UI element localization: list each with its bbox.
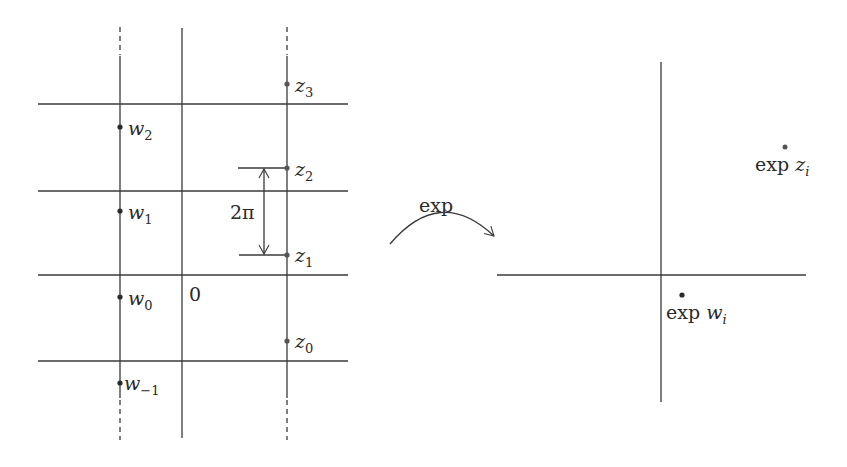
exp-map-diagram: w2 w1 w0 w−1 z3 z2 z1 z0 0 2π exp expzi … [0,0,847,467]
period-label: 2π [230,201,255,223]
label-z1: z1 [294,244,313,270]
label-w0: w0 [128,287,153,313]
origin-label: 0 [189,283,201,305]
label-z0: z0 [294,330,313,356]
point-z3 [284,81,289,86]
label-z3: z3 [294,74,313,100]
label-exp-w: expwi [666,301,727,327]
label-w1: w1 [128,201,153,227]
point-w-1 [117,380,122,385]
right-panel-axes [497,62,806,402]
label-w-1: w−1 [124,372,159,398]
label-exp-z: expzi [755,153,809,179]
point-exp-z [783,145,788,150]
point-w1 [117,208,122,213]
point-w0 [117,294,122,299]
curved-arrow-icon [390,212,494,244]
point-exp-w [679,292,684,297]
label-z2: z2 [294,158,313,184]
point-z2 [284,165,289,170]
point-z0 [284,338,289,343]
label-w2: w2 [128,117,153,143]
point-z1 [284,252,289,257]
point-w2 [117,124,122,129]
